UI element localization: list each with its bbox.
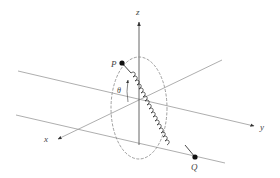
point-p-label: P: [110, 59, 117, 69]
point-q: [192, 154, 197, 159]
angle-arc: [127, 80, 128, 102]
z-axis-label: z: [135, 7, 140, 17]
angle-label: θ: [117, 86, 121, 95]
point-p: [119, 60, 124, 65]
y-axis-line: [18, 71, 254, 126]
x-axis-line: [58, 60, 222, 139]
x-axis-label: x: [43, 134, 48, 144]
diagram-canvas: z x y P Q θ: [0, 0, 280, 178]
point-q-label: Q: [191, 162, 198, 172]
y-axis-label: y: [259, 122, 264, 132]
